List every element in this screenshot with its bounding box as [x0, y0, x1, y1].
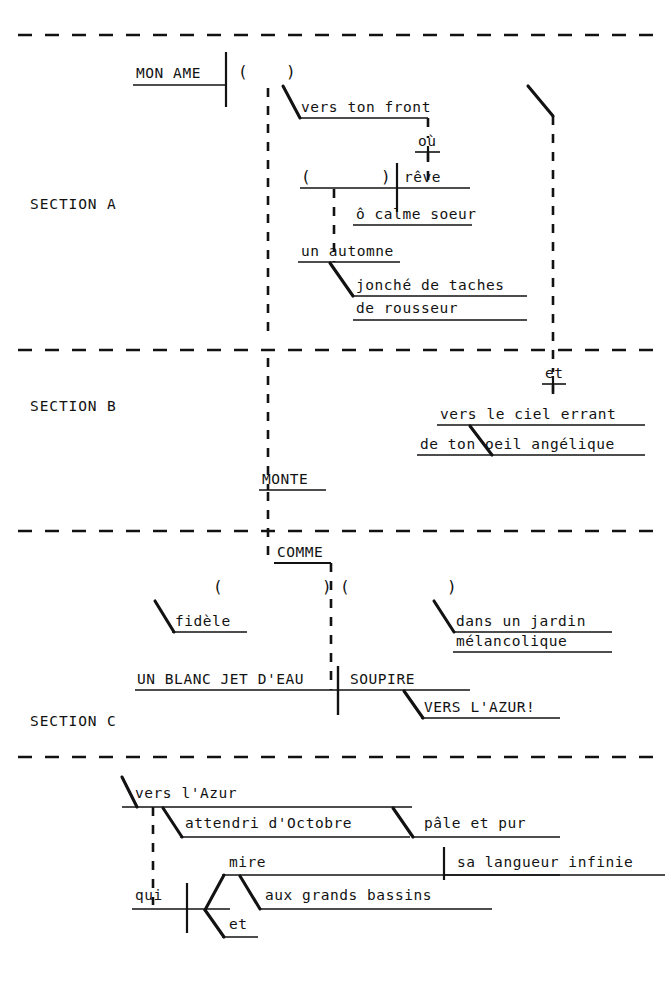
w-o-calme-soeur: ô calme soeur: [356, 207, 477, 222]
paren-jardin-close: ): [447, 577, 457, 596]
w-mon-ame: MON AME: [136, 66, 201, 81]
diag-qui-mire: [205, 875, 224, 910]
w-vers-le-ciel: vers le ciel errant: [440, 407, 616, 422]
w-dans-un-jardin: dans un jardin: [456, 614, 586, 629]
w-reve: rêve: [404, 170, 441, 185]
w-melancolique: mélancolique: [456, 634, 567, 649]
section-b-label: SECTION B: [30, 398, 117, 414]
section-c-label: SECTION C: [30, 713, 117, 729]
paren-a-close: ): [286, 62, 296, 81]
diag-fidele: [155, 601, 174, 632]
diag-trunk-right-bend: [528, 86, 553, 116]
diagram-canvas: [0, 0, 671, 985]
sentence-diagram-page: MON AMEvers ton frontoùrêveô calme soeur…: [0, 0, 671, 985]
w-vers-lazur-excl: VERS L'AZUR!: [424, 700, 535, 715]
w-et: et: [545, 366, 564, 381]
w-fidele: fidèle: [175, 614, 231, 629]
diag-pale: [393, 808, 413, 837]
w-vers-lazur: vers l'Azur: [135, 786, 237, 801]
diag-mire-bassins: [240, 876, 260, 909]
w-vers-ton-front: vers ton front: [301, 100, 431, 115]
w-comme: COMME: [277, 545, 323, 560]
paren-comme-open: (: [340, 577, 350, 596]
w-un-blanc-jet: UN BLANC JET D'EAU: [137, 672, 304, 687]
w-monte: MONTE: [262, 472, 308, 487]
paren-fidele-open: (: [213, 577, 223, 596]
diag-jardin: [434, 601, 454, 632]
paren-comme-close: ): [322, 577, 332, 596]
paren-reve-open: (: [301, 167, 311, 186]
diag-mon-ame-to-front: [283, 86, 300, 118]
diag-qui-et: [205, 910, 224, 937]
diag-soupire-azur: [404, 691, 423, 718]
w-ou: où: [418, 134, 437, 149]
w-pale-et-pur: pâle et pur: [424, 816, 526, 831]
diag-attendri: [163, 808, 182, 837]
w-aux-grands-bassins: aux grands bassins: [265, 888, 432, 903]
w-sa-langueur: sa langueur infinie: [457, 855, 633, 870]
paren-reve-close: ): [381, 167, 391, 186]
w-attendri: attendri d'Octobre: [185, 816, 352, 831]
w-jonche-de-taches: jonché de taches: [356, 278, 504, 293]
w-de-ton-oeil: de ton oeil angélique: [420, 437, 615, 452]
w-un-automne: un automne: [301, 244, 394, 259]
diagonal-connectors: [122, 86, 553, 937]
w-et-bottom: et: [229, 917, 248, 932]
section-a-label: SECTION A: [30, 196, 117, 212]
solid-verticals: [187, 52, 553, 933]
w-mire: mire: [229, 855, 266, 870]
dashed-connectors: [153, 88, 553, 905]
diag-automne-jonche: [330, 263, 353, 296]
paren-a-open: (: [238, 62, 248, 81]
w-de-rousseur: de rousseur: [356, 301, 458, 316]
w-qui: qui: [135, 888, 163, 903]
w-soupire: SOUPIRE: [350, 672, 415, 687]
